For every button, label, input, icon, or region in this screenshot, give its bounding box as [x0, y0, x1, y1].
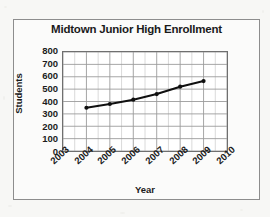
scan-speckle — [3, 96, 5, 100]
scan-speckle — [262, 10, 264, 13]
y-axis-tick-labels: 8007006005004003002001000 — [26, 46, 58, 157]
y-tick-label: 800 — [26, 46, 58, 56]
y-tick-label: 400 — [26, 97, 58, 107]
y-tick-label: 100 — [26, 134, 58, 144]
y-axis-title: Students — [13, 68, 24, 120]
enrollment-line-series — [63, 52, 227, 151]
x-axis-tick-labels: 20032004200520062007200820092010 — [62, 152, 232, 188]
chart-title: Midtown Junior High Enrollment — [16, 23, 257, 35]
scan-speckle — [120, 212, 125, 214]
scanned-page: Midtown Junior High Enrollment 800700600… — [0, 0, 270, 217]
scan-speckle — [8, 205, 12, 207]
scan-speckle — [4, 6, 7, 8]
plot-area — [62, 51, 228, 152]
y-tick-label: 600 — [26, 71, 58, 81]
scan-speckle — [240, 209, 243, 211]
y-tick-label: 500 — [26, 84, 58, 94]
y-tick-label: 200 — [26, 122, 58, 132]
x-axis-title: Year — [62, 184, 228, 195]
y-tick-label: 300 — [26, 109, 58, 119]
y-tick-label: 700 — [26, 59, 58, 69]
